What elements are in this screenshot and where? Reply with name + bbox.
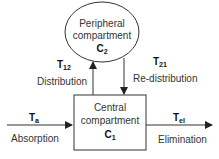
peripheral-symbol: C2 bbox=[66, 43, 138, 57]
redistribution-label: Re-distribution bbox=[133, 73, 197, 84]
absorption-label: Absorption bbox=[11, 133, 59, 144]
elimination-label: Elimination bbox=[158, 134, 207, 145]
central-symbol: C1 bbox=[74, 129, 146, 143]
central-label-line2: compartment bbox=[74, 115, 146, 126]
peripheral-label-line2: compartment bbox=[66, 30, 138, 41]
redistribution-rate: T21 bbox=[153, 56, 167, 70]
elimination-rate: Tel bbox=[173, 112, 185, 126]
distribution-label: Distribution bbox=[37, 76, 87, 87]
peripheral-label-line1: Peripheral bbox=[66, 18, 138, 29]
distribution-rate: T12 bbox=[57, 59, 71, 73]
absorption-rate: Ta bbox=[29, 112, 39, 126]
central-label-line1: Central bbox=[74, 102, 146, 113]
